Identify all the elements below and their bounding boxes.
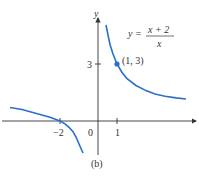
point-label: (1, 3) <box>122 55 144 67</box>
graph-figure: y −2 0 1 3 (1, 3) y = x + 2 x (b) <box>0 0 199 179</box>
equation-lhs: y = <box>127 28 142 39</box>
equation-denominator: x <box>156 38 162 49</box>
figure-caption: (b) <box>91 158 103 170</box>
x-tick-label-1: 1 <box>115 127 120 138</box>
curve-left-branch <box>10 108 83 154</box>
point-1-3 <box>114 61 119 66</box>
equation-numerator: x + 2 <box>147 24 169 35</box>
y-axis-label: y <box>93 8 99 19</box>
y-tick-label-3: 3 <box>87 59 92 70</box>
x-tick-label-0: 0 <box>88 127 93 138</box>
x-tick-label-neg2: −2 <box>53 127 64 138</box>
